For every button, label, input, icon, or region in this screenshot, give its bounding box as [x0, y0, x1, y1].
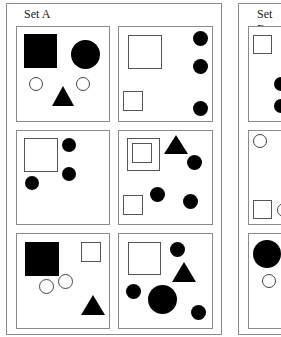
set-a-cell-3 [16, 130, 110, 225]
set-a-cell-6 [118, 233, 213, 329]
outline-square [81, 242, 101, 262]
filled-square [24, 34, 57, 68]
filled-circle [193, 59, 208, 74]
outline-square [123, 91, 143, 111]
filled-circle [183, 194, 198, 209]
outline-square [24, 138, 58, 172]
outline-circle [39, 279, 54, 294]
filled-circle [193, 101, 208, 116]
filled-circle-large [253, 240, 281, 268]
outline-square [128, 242, 161, 275]
filled-triangle [164, 135, 188, 154]
set-a-cell-4 [118, 130, 213, 225]
outline-circle [58, 274, 73, 289]
filled-circle [25, 176, 39, 190]
outline-circle [29, 77, 43, 91]
outline-square [123, 195, 143, 215]
outline-square [128, 35, 162, 69]
outline-circle [253, 134, 267, 148]
filled-circle-large [148, 285, 177, 314]
filled-circle [193, 31, 208, 46]
filled-circle [274, 77, 281, 91]
set-a-cell-1 [16, 26, 110, 122]
filled-circle [126, 284, 141, 299]
filled-triangle [52, 86, 74, 106]
set-a-cell-2 [118, 26, 213, 122]
filled-circle [187, 155, 202, 170]
filled-circle [62, 167, 76, 181]
outline-circle [277, 203, 281, 217]
filled-circle [62, 138, 76, 152]
filled-circle [191, 305, 206, 320]
inner-square [132, 143, 152, 163]
outline-square [253, 35, 272, 54]
filled-triangle [172, 262, 196, 282]
set-b-cell-3 [248, 130, 281, 225]
filled-circle [71, 40, 100, 69]
set-b-cell-5 [248, 233, 281, 329]
filled-circle [274, 99, 281, 113]
outline-circle [262, 274, 276, 288]
outline-circle [76, 77, 90, 91]
filled-circle [150, 187, 165, 202]
filled-square [25, 242, 59, 276]
filled-circle [170, 242, 185, 257]
outline-square [253, 200, 272, 219]
set-b-cell-1 [248, 26, 281, 122]
set-a-cell-5 [16, 233, 110, 329]
set-a-title: Set A [24, 7, 50, 22]
filled-triangle [81, 295, 105, 315]
